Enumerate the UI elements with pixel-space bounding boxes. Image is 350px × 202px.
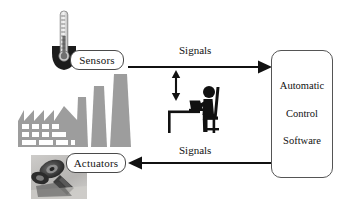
- node-actuators-label: Actuators: [74, 157, 119, 169]
- controller-line-automatic: Automatic: [280, 81, 324, 92]
- arrow-controller-to-actuators: [128, 157, 271, 170]
- node-sensors-label: Sensors: [79, 54, 115, 66]
- node-actuators[interactable]: Actuators: [66, 153, 126, 173]
- arrow-sensors-to-controller: [128, 61, 272, 74]
- diagram-canvas: Sensors Actuators Automatic Control Soft…: [0, 0, 350, 202]
- node-controller[interactable]: Automatic Control Software: [271, 50, 333, 178]
- controller-line-software: Software: [283, 136, 321, 147]
- controller-line-control: Control: [286, 109, 318, 120]
- node-sensors[interactable]: Sensors: [70, 50, 124, 70]
- edge-label-signals-bottom: Signals: [179, 144, 211, 156]
- arrow-operator-interaction: [172, 70, 180, 101]
- edge-label-signals-top: Signals: [179, 44, 211, 56]
